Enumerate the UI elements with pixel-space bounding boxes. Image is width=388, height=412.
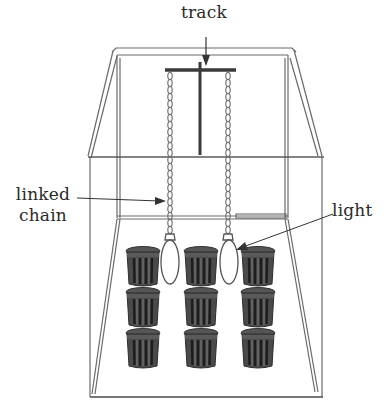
chain-left xyxy=(168,73,172,234)
pot xyxy=(241,288,275,328)
pot xyxy=(241,329,275,369)
light-right xyxy=(220,234,238,284)
pot xyxy=(126,329,160,369)
chain-right xyxy=(226,73,230,234)
pot xyxy=(184,329,218,369)
pot xyxy=(126,288,160,328)
track-label: track xyxy=(181,2,227,23)
linked-chain-label-line2: chain xyxy=(12,205,74,226)
pot xyxy=(184,288,218,328)
pot xyxy=(184,247,218,287)
track-arrow xyxy=(202,37,210,66)
pots-grid xyxy=(126,247,275,369)
pot xyxy=(126,247,160,287)
light-left xyxy=(161,234,179,284)
pot xyxy=(241,247,275,287)
light-label: light xyxy=(332,200,373,221)
linked-chain-label: linked chain xyxy=(12,184,74,226)
linked-chain-label-line1: linked xyxy=(12,184,74,205)
